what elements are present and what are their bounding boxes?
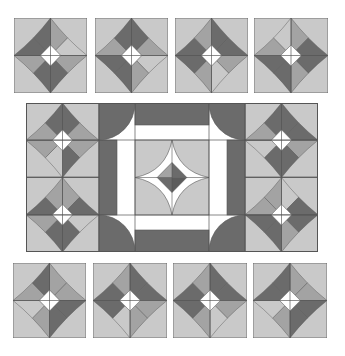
quilt-tile-top-2	[95, 18, 168, 93]
center-medallion-block	[26, 103, 318, 252]
star-icon	[173, 263, 247, 338]
quilt-tile-bottom-1	[13, 263, 86, 338]
star-icon	[95, 18, 168, 93]
quilt-tile-bottom-4	[253, 263, 327, 338]
star-icon	[175, 18, 248, 93]
star-icon	[13, 263, 86, 338]
star-icon	[253, 263, 327, 338]
frame-bottom-band	[135, 230, 209, 252]
frame-right-band	[227, 140, 245, 215]
quilt-tile-bottom-3	[173, 263, 247, 338]
quilt-tile-top-4	[254, 18, 328, 93]
quilt-tile-bottom-2	[93, 263, 167, 338]
center-star	[135, 140, 209, 215]
frame-top-band	[135, 103, 209, 125]
star-icon	[254, 18, 328, 93]
star-icon	[14, 18, 87, 93]
quilt-tile-top-3	[175, 18, 248, 93]
star-icon	[93, 263, 167, 338]
frame-left-band	[99, 140, 117, 215]
quilt-tile-top-1	[14, 18, 87, 93]
